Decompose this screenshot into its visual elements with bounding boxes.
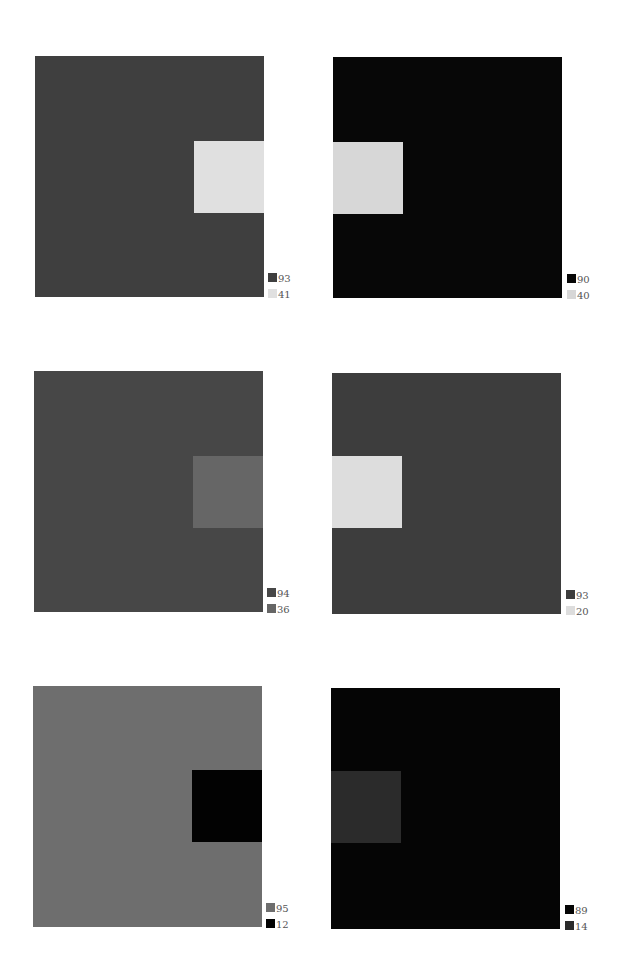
inner-square [194,141,264,213]
inner-swatch [567,290,576,299]
inner-square [192,770,262,842]
inner-value: 14 [575,922,588,932]
background-value: 90 [577,275,590,285]
legend-row-inner: 40 [567,289,590,299]
background-swatch [567,274,576,283]
legend: 93 20 [566,589,589,621]
background-value: 93 [576,591,589,601]
legend-row-background: 89 [565,904,588,914]
legend-row-background: 95 [266,902,289,912]
legend-row-background: 93 [566,589,589,599]
inner-swatch [566,606,575,615]
background-value: 94 [277,589,290,599]
legend: 94 36 [267,587,290,619]
background-swatch [565,905,574,914]
color-field-panel-6 [331,688,560,929]
inner-square [333,142,403,214]
legend: 93 41 [268,272,291,304]
inner-square [193,456,263,528]
inner-value: 40 [577,291,590,301]
legend-row-inner: 36 [267,603,290,613]
color-field-panel-1 [35,56,264,297]
legend-row-background: 90 [567,273,590,283]
legend-row-inner: 14 [565,920,588,930]
background-swatch [266,903,275,912]
inner-swatch [565,921,574,930]
background-value: 93 [278,274,291,284]
background-swatch [566,590,575,599]
legend-row-background: 94 [267,587,290,597]
color-field-panel-3 [34,371,263,612]
legend-row-background: 93 [268,272,291,282]
legend-row-inner: 41 [268,288,291,298]
inner-value: 12 [276,920,289,930]
inner-square [332,456,402,528]
color-field-panel-5 [33,686,262,927]
inner-square [331,771,401,843]
legend: 89 14 [565,904,588,936]
background-swatch [267,588,276,597]
background-value: 95 [276,904,289,914]
inner-value: 20 [576,607,589,617]
color-field-panel-4 [332,373,561,614]
inner-value: 36 [277,605,290,615]
inner-swatch [266,919,275,928]
color-field-panel-2 [333,57,562,298]
legend-row-inner: 20 [566,605,589,615]
legend-row-inner: 12 [266,918,289,928]
inner-swatch [268,289,277,298]
legend: 95 12 [266,902,289,934]
legend: 90 40 [567,273,590,305]
inner-swatch [267,604,276,613]
background-value: 89 [575,906,588,916]
inner-value: 41 [278,290,291,300]
background-swatch [268,273,277,282]
